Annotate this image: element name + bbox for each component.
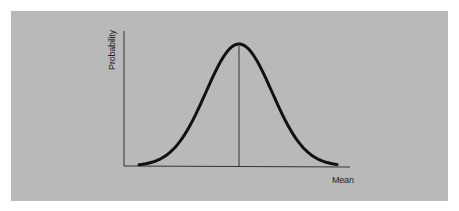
y-axis-label: Probability [104,33,120,67]
y-axis-label-text: Probability [107,30,117,70]
bell-curve-chart [0,0,459,211]
x-axis-label: Mean [332,175,354,185]
x-axis [124,166,350,167]
normal-distribution-curve [139,44,337,165]
